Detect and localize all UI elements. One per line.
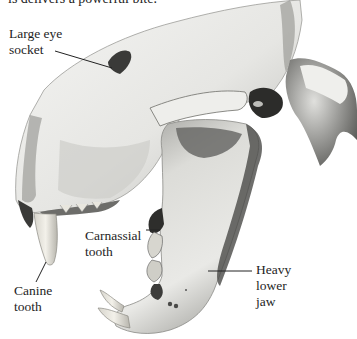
canine-leader <box>36 262 46 282</box>
label-heavy-lower-jaw: Heavy lower jaw <box>256 262 291 310</box>
label-carnassial-tooth: Carnassial tooth <box>85 228 141 260</box>
label-canine-tooth: Canine tooth <box>14 283 52 315</box>
label-large-eye-socket: Large eye socket <box>9 26 62 58</box>
skull-figure-page: is delivers a powerful bite. <box>0 0 357 339</box>
